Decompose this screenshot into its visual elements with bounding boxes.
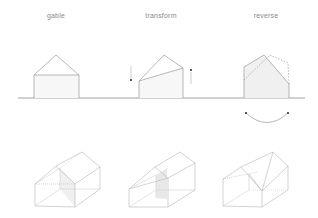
transform-elevation	[139, 55, 183, 98]
reverse-isometric	[223, 152, 288, 207]
up-arrow-icon	[190, 69, 192, 84]
gable-isometric	[35, 152, 100, 207]
down-arrow-icon	[130, 66, 132, 81]
transform-isometric	[129, 152, 195, 207]
diagram-canvas	[0, 0, 318, 218]
gable-elevation	[34, 55, 79, 98]
reverse-elevation	[244, 55, 289, 98]
rotate-arrow-icon	[245, 112, 289, 123]
